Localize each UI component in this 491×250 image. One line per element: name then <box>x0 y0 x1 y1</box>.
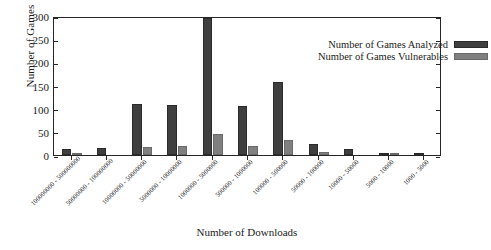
bar-analyzed <box>238 106 248 155</box>
y-axis-tick-label: 100 <box>19 104 49 115</box>
bar-analyzed <box>97 148 107 155</box>
legend-item: Number of Games Vulnerables <box>276 50 488 62</box>
y-axis-tick-mark <box>436 18 440 19</box>
y-axis-tick-mark <box>436 110 440 111</box>
y-axis-tick-mark <box>54 64 58 65</box>
bar-vulnerable <box>248 146 258 155</box>
bar-group <box>160 18 195 155</box>
y-axis-tick-label: 200 <box>19 58 49 69</box>
bar-analyzed <box>167 105 177 156</box>
bar-analyzed <box>379 153 389 155</box>
y-axis-tick-mark <box>54 87 58 88</box>
bar-vulnerable <box>178 146 188 155</box>
bar-group <box>195 18 230 155</box>
bar-vulnerable <box>213 134 223 155</box>
y-axis-tick-mark <box>54 110 58 111</box>
bar-analyzed <box>309 144 319 155</box>
y-axis-tick-mark <box>436 64 440 65</box>
y-axis-tick-mark <box>54 133 58 134</box>
y-axis-tick-mark <box>436 41 440 42</box>
legend-item: Number of Games Analyzed <box>276 38 488 50</box>
chart-legend: Number of Games Analyzed Number of Games… <box>273 37 491 64</box>
legend-label: Number of Games Analyzed <box>328 39 448 50</box>
y-axis-tick-label: 50 <box>19 127 49 138</box>
bar-vulnerable <box>284 140 294 155</box>
bar-vulnerable <box>319 152 329 155</box>
y-axis-tick-labels: 050100150200250300 <box>15 17 49 156</box>
bar-group <box>125 18 160 155</box>
legend-swatch-vulnerable <box>454 53 488 60</box>
y-axis-tick-label: 250 <box>19 35 49 46</box>
y-axis-tick-mark <box>54 41 58 42</box>
x-axis-tick-labels: 100000000 - 50000000050000000 - 10000000… <box>53 158 441 220</box>
bar-analyzed <box>203 18 213 155</box>
bar-analyzed <box>414 153 424 155</box>
y-axis-tick-label: 0 <box>19 151 49 162</box>
y-axis-tick-mark <box>436 133 440 134</box>
y-axis-tick-mark <box>436 87 440 88</box>
bar-vulnerable <box>390 153 400 155</box>
legend-swatch-analyzed <box>454 41 488 48</box>
plot-area: Number of Games Analyzed Number of Games… <box>53 17 441 156</box>
bar-vulnerable <box>143 147 153 155</box>
bar-analyzed <box>273 82 283 155</box>
bar-analyzed <box>62 149 72 155</box>
bar-group <box>89 18 124 155</box>
y-axis-tick-label: 300 <box>19 12 49 23</box>
x-axis-title: Number of Downloads <box>53 226 441 238</box>
legend-label: Number of Games Vulnerables <box>318 51 448 62</box>
y-axis-tick-mark <box>54 18 58 19</box>
bar-group <box>230 18 265 155</box>
bar-analyzed <box>344 149 354 155</box>
y-axis-tick-label: 150 <box>19 81 49 92</box>
bar-group <box>54 18 89 155</box>
bar-analyzed <box>132 104 142 155</box>
